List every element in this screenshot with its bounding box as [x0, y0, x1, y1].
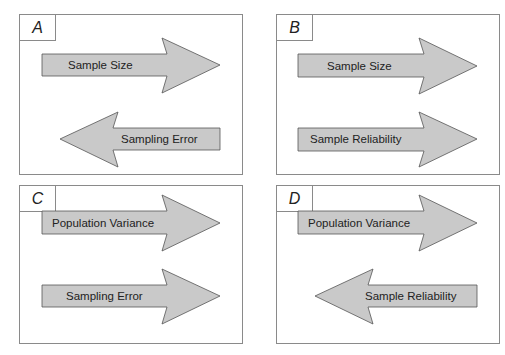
panel-b: B Sample Size Sample Reliability [276, 14, 500, 175]
arrow-panel-d-bottom: Sample Reliability [277, 186, 501, 345]
panel-c: C Population Variance Sampling Error [19, 185, 243, 344]
arrow-panel-c-bottom: Sampling Error [20, 186, 244, 345]
panel-d: D Population Variance Sample Reliability [276, 185, 500, 344]
arrow-label: Sampling Error [121, 133, 198, 145]
arrow-panel-b-bottom: Sample Reliability [277, 15, 501, 176]
arrow-panel-a-bottom: Sampling Error [20, 15, 244, 176]
arrow-label: Sample Reliability [365, 290, 457, 302]
panel-a: A Sample Size Sampling Error [19, 14, 243, 175]
arrow-label: Sample Reliability [310, 133, 402, 145]
arrow-label: Sampling Error [66, 290, 143, 302]
